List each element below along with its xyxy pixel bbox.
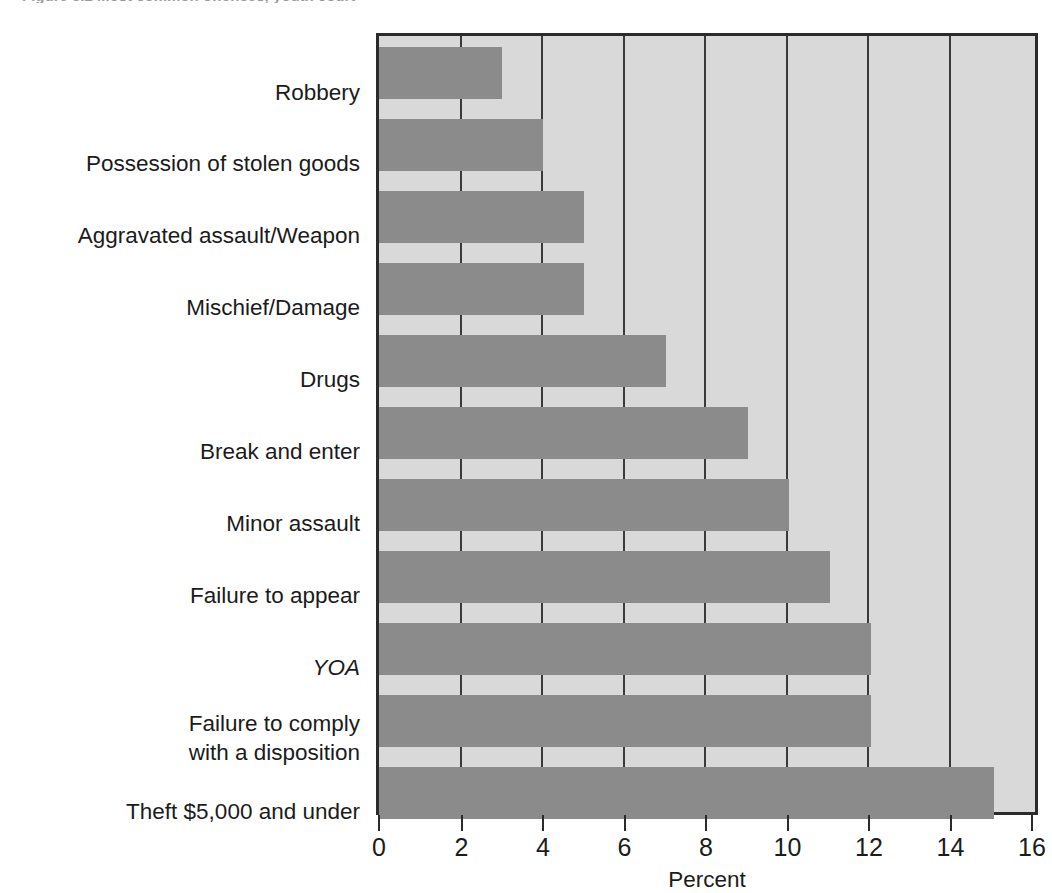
x-tick-label-10: 10 bbox=[758, 833, 818, 862]
figure-caption-clipped: Figure 3.2 Most common offences, youth c… bbox=[22, 0, 642, 3]
bar-series bbox=[379, 36, 1035, 812]
x-axis-title: Percent bbox=[376, 867, 1038, 893]
x-tick-label-14: 14 bbox=[921, 833, 981, 862]
bar-failure-to-comply bbox=[379, 695, 871, 747]
bar-minor-assault bbox=[379, 479, 789, 531]
x-tick-0 bbox=[378, 815, 380, 831]
plot-area bbox=[376, 33, 1038, 815]
bar-break-and-enter bbox=[379, 407, 748, 459]
x-tick-label-12: 12 bbox=[839, 833, 899, 862]
bar-theft-5000-and-under bbox=[379, 767, 994, 819]
x-tick-12 bbox=[868, 815, 870, 831]
y-axis-category-labels: Robbery Possession of stolen goods Aggra… bbox=[0, 33, 360, 815]
x-tick-label-16: 16 bbox=[1002, 833, 1052, 862]
bar-failure-to-appear bbox=[379, 551, 830, 603]
x-tick-label-2: 2 bbox=[432, 833, 492, 862]
y-label-theft-5000-and-under: Theft $5,000 and under bbox=[0, 799, 360, 825]
x-tick-14 bbox=[950, 815, 952, 831]
x-tick-4 bbox=[542, 815, 544, 831]
bar-aggravated-assault-weapon bbox=[379, 191, 584, 243]
y-label-robbery: Robbery bbox=[0, 80, 360, 106]
y-label-minor-assault: Minor assault bbox=[0, 511, 360, 537]
x-axis: 0 2 4 6 8 10 12 14 16 Percent bbox=[376, 815, 1038, 893]
y-label-failure-to-appear: Failure to appear bbox=[0, 583, 360, 609]
x-tick-6 bbox=[624, 815, 626, 831]
y-label-break-and-enter: Break and enter bbox=[0, 439, 360, 465]
bar-yoa bbox=[379, 623, 871, 675]
y-label-failure-to-comply-line2: with a disposition bbox=[0, 740, 360, 766]
y-label-aggravated-assault-weapon: Aggravated assault/Weapon bbox=[0, 223, 360, 249]
bar-mischief-damage bbox=[379, 263, 584, 315]
bar-chart-figure: Figure 3.2 Most common offences, youth c… bbox=[0, 0, 1052, 893]
x-tick-label-6: 6 bbox=[595, 833, 655, 862]
figure-caption-text: Figure 3.2 Most common offences, youth c… bbox=[22, 0, 642, 3]
bar-possession-of-stolen-goods bbox=[379, 119, 543, 171]
x-tick-8 bbox=[705, 815, 707, 831]
y-label-yoa: YOA bbox=[0, 655, 360, 681]
y-label-mischief-damage: Mischief/Damage bbox=[0, 295, 360, 321]
x-tick-label-8: 8 bbox=[676, 833, 736, 862]
x-tick-2 bbox=[461, 815, 463, 831]
bar-robbery bbox=[379, 47, 502, 99]
x-tick-label-0: 0 bbox=[349, 833, 409, 862]
bar-drugs bbox=[379, 335, 666, 387]
x-tick-10 bbox=[787, 815, 789, 831]
y-label-failure-to-comply-line1: Failure to comply bbox=[0, 711, 360, 737]
x-tick-16 bbox=[1031, 815, 1033, 831]
x-tick-label-4: 4 bbox=[513, 833, 573, 862]
y-label-possession-of-stolen-goods: Possession of stolen goods bbox=[0, 151, 360, 177]
y-label-drugs: Drugs bbox=[0, 367, 360, 393]
